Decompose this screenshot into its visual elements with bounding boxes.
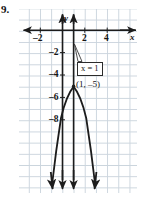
y-tick-label-neg8: –8	[49, 114, 59, 124]
y-tick-label-neg2: –2	[49, 47, 59, 57]
vertex-point	[72, 85, 75, 88]
callout-leader	[74, 44, 82, 62]
x-tick-label-2: 2	[82, 33, 87, 43]
axis-of-symmetry-callout: x = 1	[77, 62, 103, 76]
y-axis-label: y	[64, 13, 68, 23]
figure-container: 9.	[0, 0, 146, 201]
graph-plot	[0, 0, 146, 201]
y-tick-label-neg4: –4	[49, 69, 59, 79]
x-tick-label-neg2: –2	[33, 33, 43, 43]
vertex-label: (1, –5)	[76, 79, 100, 89]
x-tick-label-4: 4	[104, 33, 109, 43]
y-tick-label-neg6: –6	[49, 92, 59, 102]
x-axis-label: x	[130, 32, 135, 42]
